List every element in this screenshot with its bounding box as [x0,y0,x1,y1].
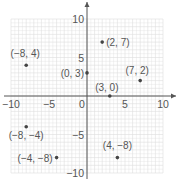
point-marker [116,156,120,160]
point-marker [138,79,142,83]
data-point: (−8, 4) [11,48,40,67]
y-tick-label: −5 [72,129,84,141]
point-marker [100,40,104,44]
x-axis-arrow-icon [171,94,176,99]
point-label: (3, 0) [95,82,118,93]
x-tick-label: 5 [122,98,128,110]
data-point: (−4, −8) [18,153,59,164]
point-label: (2, 7) [106,37,129,48]
data-point: (3, 0) [95,82,118,98]
point-marker [85,71,89,75]
point-label: (−4, −8) [18,153,53,164]
x-tick-label: 0 [79,98,85,110]
point-label: (0, 3) [61,68,84,79]
point-label: (4, −8) [103,140,132,151]
x-tick-label: 10 [157,98,169,110]
data-point: (−8, −4) [9,125,44,141]
point-marker [24,125,28,129]
y-tick-label: 5 [78,52,84,64]
data-point: (2, 7) [100,37,129,48]
x-tick-label: −10 [2,98,20,110]
data-point: (0, 3) [61,68,89,79]
y-tick-label: −10 [66,167,84,179]
coordinate-plane: −10−50510−10−5510 (−8, 4)(2, 7)(0, 3)(7,… [0,0,180,181]
point-marker [55,156,59,160]
y-axis-arrow-icon [85,2,90,7]
point-marker [24,63,28,67]
data-point: (7, 2) [126,65,149,83]
point-label: (−8, −4) [9,130,44,141]
y-tick-label: 10 [72,13,84,25]
point-label: (−8, 4) [11,48,40,59]
data-point: (4, −8) [103,140,132,160]
x-tick-label: −5 [43,98,55,110]
point-label: (7, 2) [126,65,149,76]
point-marker [108,94,112,98]
